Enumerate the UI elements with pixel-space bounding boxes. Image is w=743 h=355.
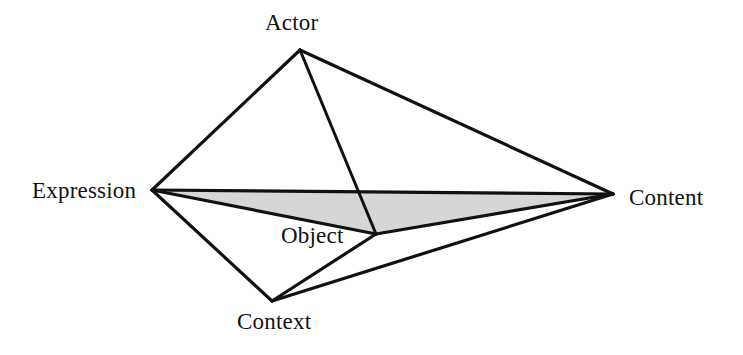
shaded-face-expression-content-object xyxy=(152,190,613,234)
edge-actor-expression xyxy=(152,50,300,190)
node-label-context: Context xyxy=(237,310,311,333)
node-label-content: Content xyxy=(629,186,703,209)
node-label-actor: Actor xyxy=(265,11,318,34)
diagram-canvas: Actor Expression Content Object Context xyxy=(0,0,743,355)
node-label-expression: Expression xyxy=(32,179,136,202)
edge-actor-content xyxy=(300,50,613,194)
node-label-object: Object xyxy=(281,224,344,247)
